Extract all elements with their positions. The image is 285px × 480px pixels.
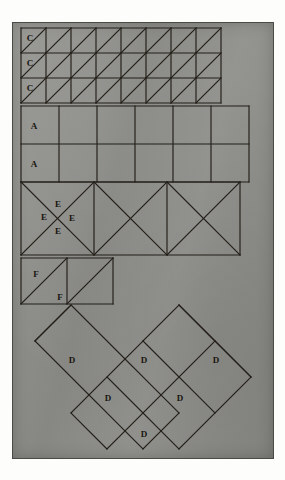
figure-d-diagonal [71, 413, 107, 449]
figure-e-label: E [41, 212, 47, 222]
figure-c-diagonal [121, 78, 146, 103]
figure-d-label: D [69, 355, 76, 365]
figure-d-label: D [141, 429, 148, 439]
figure-c-diagonal [46, 53, 71, 78]
figure-f-label: F [33, 269, 39, 279]
figure-d-diagonal [179, 305, 215, 341]
figure-a-group [21, 106, 249, 182]
figure-c-diagonal [146, 53, 171, 78]
figure-c-label: C [27, 83, 34, 93]
figure-d-diagonal [143, 305, 179, 341]
page-canvas: C C C A A [0, 0, 285, 480]
geometric-figure-svg: C C C A A [13, 23, 271, 456]
figure-c-diagonal [196, 78, 221, 103]
figure-d-group [35, 305, 251, 449]
figure-e-label: E [55, 199, 61, 209]
figure-c-diagonal [21, 53, 46, 78]
figure-c-diagonal [71, 78, 96, 103]
figure-c-diagonal [196, 28, 221, 53]
figure-c-diagonal [146, 78, 171, 103]
figure-c-diagonal [46, 78, 71, 103]
figure-c-diagonal [21, 78, 46, 103]
figure-c-diagonal [171, 53, 196, 78]
figure-a-label: A [31, 159, 38, 169]
figure-a-label: A [31, 121, 38, 131]
diagram-plate: C C C A A [12, 22, 274, 459]
figure-d-label: D [177, 393, 184, 403]
figure-f-label: F [57, 292, 63, 302]
figure-f-diagonal [67, 258, 113, 304]
figure-c-diagonal [96, 53, 121, 78]
figure-c-diagonal [196, 53, 221, 78]
figure-c-label: C [27, 33, 34, 43]
figure-e-group [21, 182, 240, 255]
figure-c-diagonal [71, 53, 96, 78]
figure-c-diagonal [46, 28, 71, 53]
figure-c-diagonal [171, 28, 196, 53]
figure-c-diagonal [121, 53, 146, 78]
figure-d-label: D [105, 393, 112, 403]
figure-c-diagonal [171, 78, 196, 103]
figure-c-diagonal [96, 78, 121, 103]
figure-d-diagonal [35, 305, 71, 341]
figure-e-label: E [55, 226, 61, 236]
figure-f-group [21, 258, 113, 304]
figure-c-diagonal [21, 28, 46, 53]
figure-c-diagonal [71, 28, 96, 53]
figure-d-label: D [141, 355, 148, 365]
figure-c-diagonal [121, 28, 146, 53]
figure-e-label: E [69, 213, 75, 223]
figure-c-label: C [27, 58, 34, 68]
figure-c-diagonal [146, 28, 171, 53]
figure-d-label: D [213, 355, 220, 365]
figure-c-diagonal [96, 28, 121, 53]
figure-c-group [21, 28, 221, 103]
